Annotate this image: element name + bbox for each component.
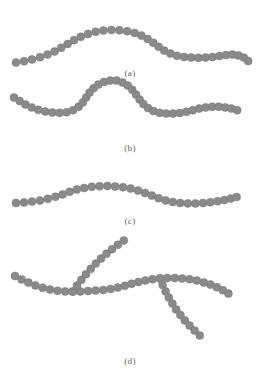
bead: [176, 199, 184, 207]
bead: [28, 55, 36, 63]
bead: [184, 199, 192, 207]
bead: [180, 53, 188, 61]
bead: [51, 193, 59, 201]
bead: [31, 281, 39, 289]
bead: [191, 199, 199, 207]
bead: [224, 290, 232, 298]
bead: [163, 274, 171, 282]
bead: [44, 51, 52, 59]
panel-c: [12, 182, 241, 207]
bead: [77, 33, 85, 41]
bead: [233, 106, 241, 114]
bead: [141, 276, 149, 284]
bead: [114, 284, 122, 292]
bead: [28, 198, 36, 206]
bead: [107, 26, 115, 34]
bead: [84, 30, 92, 38]
chain-canvas: [0, 0, 263, 382]
bead: [149, 275, 157, 283]
chain-a-main: [12, 26, 252, 67]
bead: [36, 53, 44, 61]
panel-caption-a: (a): [110, 68, 150, 78]
bead: [162, 196, 170, 204]
bead: [12, 199, 20, 207]
bead: [96, 182, 104, 190]
panel-d: [11, 237, 232, 340]
bead: [99, 286, 107, 294]
bead: [187, 54, 195, 62]
panel-caption-c: (c): [110, 216, 150, 226]
bead: [178, 274, 186, 282]
bead: [134, 278, 142, 286]
bead: [73, 186, 81, 194]
bead: [34, 106, 42, 114]
bead: [120, 237, 128, 245]
bead: [111, 182, 119, 190]
bead: [107, 285, 115, 293]
panel-caption-b: (b): [110, 143, 150, 153]
bead: [39, 284, 47, 292]
chain-c-main: [12, 182, 241, 207]
bead: [115, 26, 123, 34]
bead: [46, 286, 54, 294]
bead: [233, 193, 241, 201]
bead: [80, 184, 88, 192]
chain-d-backbone: [11, 272, 232, 298]
bead: [20, 57, 28, 65]
bead: [99, 27, 107, 35]
bead: [92, 28, 100, 36]
bead: [194, 54, 202, 62]
bead: [44, 195, 52, 203]
bead: [199, 199, 207, 207]
bead: [48, 109, 56, 117]
bead: [169, 198, 177, 206]
bead: [171, 274, 179, 282]
bead: [173, 52, 181, 60]
bead: [54, 287, 62, 295]
polymer-conformation-figure: (a) (b) (c) (d): [0, 0, 263, 382]
bead: [12, 59, 20, 67]
bead: [88, 183, 96, 191]
bead: [193, 277, 201, 285]
bead: [66, 188, 74, 196]
bead: [92, 287, 100, 295]
panel-a: [12, 26, 252, 67]
bead: [196, 331, 204, 339]
bead: [61, 287, 69, 295]
bead: [20, 198, 28, 206]
bead: [84, 287, 92, 295]
bead: [206, 198, 214, 206]
chain-b-main: [10, 77, 241, 118]
bead: [119, 183, 127, 191]
panel-caption-d: (d): [110, 356, 150, 366]
bead: [41, 108, 49, 116]
bead: [103, 182, 111, 190]
panel-b: [10, 77, 241, 118]
bead: [244, 57, 252, 65]
bead: [127, 185, 135, 193]
bead: [186, 275, 194, 283]
bead: [36, 196, 44, 204]
bead: [123, 27, 131, 35]
